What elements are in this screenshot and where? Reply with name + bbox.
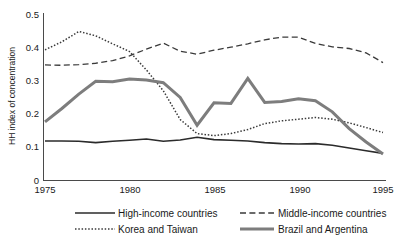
legend-label: High-income countries [118, 208, 218, 219]
x-tick-label: 1975 [34, 184, 55, 195]
x-tick-labels: 1975 1980 1985 1990 1995 [34, 184, 393, 195]
legend-label: Middle-income countries [278, 208, 386, 219]
series-line [45, 137, 383, 153]
y-tick-labels: 0.5 0.4 0.3 0.2 0.1 0 [26, 9, 39, 186]
x-tick-label: 1985 [204, 184, 225, 195]
legend-item: High-income countries [75, 208, 218, 219]
legend-label: Brazil and Argentina [278, 224, 368, 235]
y-tick-label: 0.1 [26, 141, 39, 152]
line-chart: HH index of concentration 0.5 0.4 0.3 0.… [0, 0, 404, 243]
y-tick-label: 0.2 [26, 108, 39, 119]
legend-item: Korea and Taiwan [75, 224, 198, 235]
y-tick-label: 0.4 [26, 42, 39, 53]
legend-item: Brazil and Argentina [240, 224, 368, 235]
y-tick-label: 0.3 [26, 75, 39, 86]
chart-legend: High-income countries Middle-income coun… [75, 208, 386, 235]
series-line [45, 37, 383, 65]
series-layer [45, 31, 383, 154]
y-tick-label: 0.5 [26, 9, 39, 20]
chart-figure: HH index of concentration 0.5 0.4 0.3 0.… [0, 0, 404, 243]
legend-item: Middle-income countries [240, 208, 386, 219]
x-tick-label: 1980 [119, 184, 140, 195]
legend-label: Korea and Taiwan [118, 224, 198, 235]
x-tick-label: 1990 [289, 184, 310, 195]
x-tick-label: 1995 [372, 184, 393, 195]
y-axis-label: HH index of concentration [7, 47, 17, 145]
